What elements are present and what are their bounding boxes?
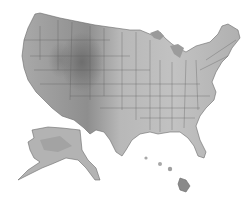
hawaii: [144, 156, 190, 192]
alaska: [18, 127, 100, 180]
us-relief-map: [0, 0, 247, 202]
